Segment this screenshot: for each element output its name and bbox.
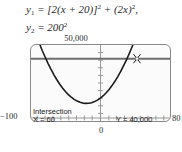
equation-line-1: y1 = [2(x + 20)]2 + (2x)2, bbox=[26, 1, 182, 19]
y-max-label: 50,000 bbox=[64, 33, 87, 43]
equation1-rhs-2: + (2x) bbox=[104, 3, 132, 15]
equation1-subscript: 1 bbox=[31, 9, 35, 17]
equation-block: y1 = [2(x + 20)]2 + (2x)2, y2 = 2002 bbox=[26, 1, 182, 37]
equation-line-2: y2 = 2002 bbox=[26, 19, 182, 37]
intersection-x-value: X = 60 bbox=[33, 115, 55, 124]
intersection-y-value: Y = 40,000 bbox=[116, 115, 152, 124]
parabola-curve-y1 bbox=[31, 44, 142, 103]
x-max-label: 80 bbox=[172, 113, 181, 123]
equation2-exponent: 2 bbox=[64, 21, 68, 29]
equation1-exponent-1: 2 bbox=[98, 3, 102, 11]
equation1-tail: , bbox=[135, 3, 138, 15]
equation2-rhs: = 200 bbox=[37, 21, 64, 33]
equation2-subscript: 2 bbox=[31, 27, 35, 35]
equation1-rhs: = [2(x + 20)] bbox=[37, 3, 97, 15]
origin-label: 0 bbox=[99, 125, 103, 135]
x-min-label: −100 bbox=[0, 111, 18, 121]
